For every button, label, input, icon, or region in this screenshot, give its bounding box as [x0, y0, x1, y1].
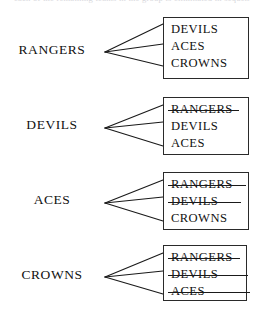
opponent-row: RANGERS [171, 101, 248, 118]
fan-connector-lines [101, 0, 165, 316]
opponent-row: DEVILS [171, 266, 246, 283]
opponent-row: RANGERS [171, 176, 248, 193]
opponent-row: ACES [171, 283, 246, 300]
opponent-name: CROWNS [171, 56, 227, 70]
opponent-row: ACES [171, 38, 248, 55]
opponent-name: DEVILS [171, 267, 218, 281]
opponent-name: RANGERS [171, 250, 233, 264]
opponent-name: CROWNS [171, 211, 227, 225]
opponent-row: ACES [171, 135, 248, 152]
opponent-name: DEVILS [171, 194, 218, 208]
opponent-name: ACES [171, 136, 205, 150]
opponent-row: CROWNS [171, 55, 248, 72]
opponent-list-box: RANGERS DEVILS ACES [163, 245, 247, 301]
opponent-name: ACES [171, 284, 205, 298]
group-team-label: CROWNS [0, 267, 104, 283]
opponent-name: RANGERS [171, 102, 233, 116]
group-team-label: ACES [0, 192, 104, 208]
opponent-row: DEVILS [171, 21, 248, 38]
group-team-label: DEVILS [0, 117, 104, 133]
opponent-row: DEVILS [171, 193, 248, 210]
opponent-list-box: RANGERS DEVILS CROWNS [163, 172, 249, 230]
opponent-name: ACES [171, 39, 205, 53]
opponent-list-box: RANGERS DEVILS ACES [163, 97, 249, 155]
opponent-row: CROWNS [171, 210, 248, 227]
opponent-row: RANGERS [171, 249, 246, 266]
elimination-diagram: each of the remaining teams in the group… [0, 0, 262, 316]
opponent-row: DEVILS [171, 118, 248, 135]
opponent-name: RANGERS [171, 177, 233, 191]
opponent-name: DEVILS [171, 22, 218, 36]
opponent-name: DEVILS [171, 119, 218, 133]
group-team-label: RANGERS [0, 42, 104, 58]
opponent-list-box: DEVILS ACES CROWNS [163, 17, 249, 79]
